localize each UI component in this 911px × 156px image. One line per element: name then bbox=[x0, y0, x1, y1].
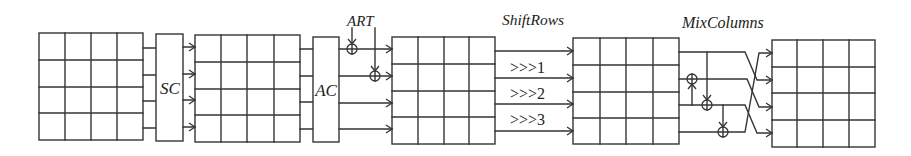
addroundtweakey-stage: ART bbox=[346, 13, 380, 81]
art-label: ART bbox=[346, 13, 375, 29]
shift-amount-row-1: >>>1 bbox=[510, 59, 545, 76]
subcells-stage: SC bbox=[143, 34, 195, 141]
state-matrix-3 bbox=[392, 37, 495, 144]
mixcolumns-row-2-wire bbox=[679, 105, 772, 133]
sc-label: SC bbox=[160, 79, 181, 98]
arrowhead-icon bbox=[189, 43, 195, 131]
mixcolumns-xor-feeds bbox=[692, 52, 723, 137]
shift-amount-row-3: >>>3 bbox=[510, 111, 545, 128]
arrowhead-icon bbox=[386, 45, 392, 133]
state-matrix-1 bbox=[39, 33, 143, 140]
mixcolumns-stage: MixColumns bbox=[679, 14, 772, 137]
shift-amount-row-2: >>>2 bbox=[510, 85, 545, 102]
shiftrows-label: ShiftRows bbox=[502, 11, 564, 28]
cipher-round-diagram: SC AC ART ShiftRows >>>1 >>>2 >>>3 MixCo… bbox=[0, 0, 911, 156]
mixcolumns-row-1-wire bbox=[679, 79, 772, 107]
wires-into-sc bbox=[143, 48, 156, 128]
state-matrix-4 bbox=[573, 38, 679, 144]
wires-out-of-sc bbox=[183, 47, 195, 127]
mixcolumns-row-3-wire bbox=[679, 53, 772, 132]
arrowhead-icon bbox=[766, 49, 772, 137]
state-matrix-5 bbox=[772, 40, 875, 147]
mixcolumns-label: MixColumns bbox=[681, 14, 764, 31]
ac-label: AC bbox=[314, 81, 337, 100]
state-matrix-2 bbox=[195, 35, 300, 142]
wires-into-ac bbox=[300, 49, 313, 129]
addconstants-stage: AC bbox=[300, 37, 392, 142]
shiftrows-stage: ShiftRows >>>1 >>>2 >>>3 bbox=[495, 11, 573, 135]
arrowhead-icon bbox=[567, 47, 573, 135]
wires-out-of-ac bbox=[339, 49, 392, 129]
